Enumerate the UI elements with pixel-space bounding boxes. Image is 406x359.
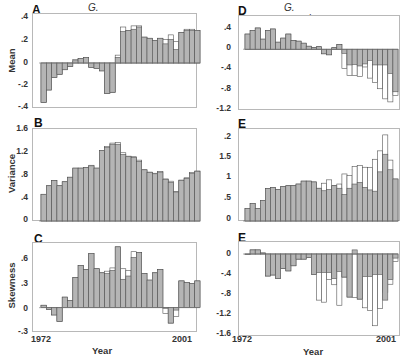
bar	[136, 27, 141, 63]
bar	[291, 186, 296, 221]
bar	[168, 39, 173, 63]
bar	[316, 254, 321, 272]
bar	[265, 189, 270, 221]
bar	[342, 195, 347, 221]
bar	[322, 191, 327, 221]
y-tick: .4	[207, 22, 231, 32]
bar	[168, 308, 173, 323]
y-tick: -.3	[4, 326, 28, 336]
bar	[136, 161, 141, 221]
bar	[73, 61, 78, 63]
bars-svg	[239, 242, 399, 335]
bar	[337, 45, 342, 50]
bar	[152, 41, 157, 64]
bar	[362, 254, 367, 277]
bar	[301, 181, 306, 221]
bar	[255, 208, 260, 221]
bar	[152, 273, 157, 308]
y-tick: -.4	[207, 62, 231, 72]
bar	[83, 270, 88, 308]
bar	[388, 254, 393, 280]
bar	[250, 31, 255, 50]
y-tick: -1.2	[207, 308, 231, 318]
bar	[347, 49, 352, 65]
bar	[115, 247, 120, 308]
y-tick: 1	[207, 171, 231, 181]
bar	[184, 283, 189, 308]
bar	[62, 297, 67, 308]
bar	[52, 308, 57, 315]
bar	[89, 166, 94, 221]
bar	[357, 49, 362, 66]
x-axis-label-right: Year	[303, 346, 323, 357]
bar	[158, 172, 163, 221]
bar	[306, 46, 311, 49]
bar	[332, 186, 337, 221]
bar	[121, 154, 126, 221]
x-tick-end: 2001	[376, 334, 396, 344]
bar	[378, 49, 383, 65]
bar	[301, 43, 306, 49]
bar	[142, 37, 147, 63]
bar	[126, 30, 131, 63]
bar	[158, 38, 163, 63]
bar	[291, 254, 296, 266]
bar	[362, 49, 367, 64]
bar	[337, 254, 342, 271]
bar	[158, 270, 163, 308]
plot-area-e	[238, 128, 400, 221]
y-tick: 0	[4, 57, 28, 67]
plot-area-f	[238, 241, 400, 336]
bar	[126, 157, 131, 221]
bar	[163, 179, 168, 221]
bar	[189, 30, 194, 63]
bar	[373, 254, 378, 275]
bar	[142, 170, 147, 221]
bar	[115, 57, 120, 63]
bar	[265, 254, 270, 276]
bar	[250, 250, 255, 254]
bar	[383, 49, 388, 65]
bar	[110, 144, 115, 221]
y-tick: .5	[207, 192, 231, 202]
bar	[296, 254, 301, 259]
bar	[195, 172, 200, 221]
bar	[357, 254, 362, 299]
y-tick: .4	[4, 192, 28, 202]
bars-svg	[239, 16, 399, 109]
bars-svg	[33, 129, 196, 220]
bar	[163, 44, 168, 63]
bar	[378, 172, 383, 221]
bars-svg	[33, 243, 196, 331]
bar	[105, 274, 110, 308]
bar	[281, 38, 286, 49]
bar	[388, 170, 393, 221]
bar	[110, 270, 115, 307]
bar	[184, 178, 189, 221]
bar	[378, 254, 383, 275]
bar	[373, 191, 378, 221]
bar	[265, 31, 270, 50]
bar	[105, 148, 110, 221]
bar	[342, 49, 347, 53]
bar	[383, 254, 388, 300]
bar	[281, 254, 286, 268]
y-tick: 1.2	[4, 146, 28, 156]
y-tick: .2	[207, 131, 231, 141]
bar	[352, 250, 357, 254]
bars-svg	[33, 14, 196, 107]
bar	[337, 188, 342, 221]
bar	[179, 33, 184, 63]
y-tick: -1.6	[207, 328, 231, 338]
bar	[195, 281, 200, 308]
y-tick: .3	[4, 278, 28, 288]
bar	[57, 308, 62, 322]
bar	[367, 254, 372, 277]
plot-area-d	[238, 15, 400, 110]
bar	[68, 177, 73, 221]
bar	[301, 254, 306, 259]
bar	[147, 280, 152, 308]
bar	[271, 29, 276, 49]
bar	[388, 49, 393, 73]
bar	[99, 150, 104, 221]
